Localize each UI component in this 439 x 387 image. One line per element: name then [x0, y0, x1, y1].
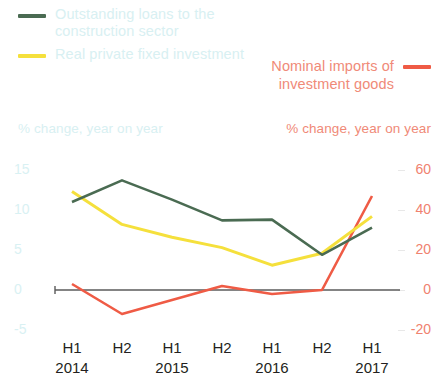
- x-label-half-1: H2: [102, 339, 142, 356]
- x-label-half-3: H2: [202, 339, 242, 356]
- x-label-half-5: H2: [302, 339, 342, 356]
- x-label-year-2014: 2014: [42, 359, 102, 376]
- chart-container: Outstanding loans to the construction se…: [0, 0, 439, 387]
- x-label-year-2017: 2017: [342, 359, 402, 376]
- series-line-investment: [72, 192, 372, 266]
- plot-area: [0, 0, 439, 387]
- x-label-year-2015: 2015: [142, 359, 202, 376]
- series-line-imports: [72, 196, 372, 314]
- series-line-loans: [72, 180, 372, 254]
- x-label-half-2: H1: [152, 339, 192, 356]
- x-label-half-0: H1: [52, 339, 92, 356]
- x-label-half-4: H1: [252, 339, 292, 356]
- x-label-year-2016: 2016: [242, 359, 302, 376]
- x-label-half-6: H1: [352, 339, 392, 356]
